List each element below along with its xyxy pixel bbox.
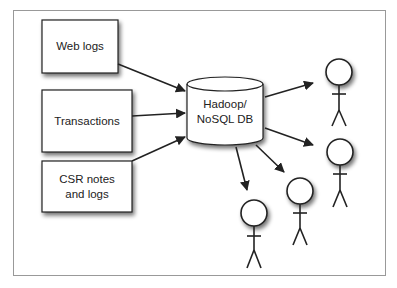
db-label-line2: NoSQL DB <box>187 112 263 127</box>
diagram-canvas: Web logs Transactions CSR notes and logs… <box>0 0 397 288</box>
db-label-line1: Hadoop/ <box>187 97 263 112</box>
csr-notes-line1: CSR notes <box>42 172 132 187</box>
transactions-label: Transactions <box>42 114 132 129</box>
web-logs-label: Web logs <box>42 39 118 54</box>
csr-notes-line2: and logs <box>42 187 132 202</box>
db-label: Hadoop/ NoSQL DB <box>187 97 263 127</box>
csr-notes-label: CSR notes and logs <box>42 172 132 202</box>
